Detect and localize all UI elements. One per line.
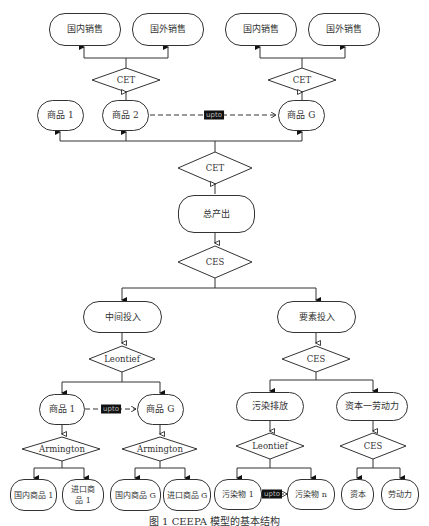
node-foreign-sales-left: 国外销售 bbox=[132, 13, 204, 46]
ces-label-main: CES bbox=[206, 257, 225, 267]
node-label: 进口商品 1 bbox=[69, 484, 97, 506]
node-label: 国内商品 1 bbox=[14, 490, 54, 501]
node-label: 资本一劳动力 bbox=[345, 401, 399, 412]
node-label: 商品 2 bbox=[112, 110, 139, 121]
node-import-good-g: 进口商品 G bbox=[163, 479, 211, 511]
node-capital: 资本 bbox=[341, 479, 374, 510]
node-import-good-1: 进口商品 1 bbox=[62, 479, 104, 511]
node-domestic-good-1: 国内商品 1 bbox=[10, 479, 57, 511]
node-label: 国外销售 bbox=[150, 24, 186, 35]
ces-label-capital-labor: CES bbox=[364, 441, 383, 451]
node-labor: 劳动力 bbox=[381, 479, 419, 510]
node-pollution-emission: 污染排放 bbox=[236, 392, 304, 421]
upto-tag-pollutant: upto bbox=[262, 490, 282, 499]
node-domestic-sales-right: 国内销售 bbox=[225, 13, 297, 46]
node-label: 商品 G bbox=[287, 110, 315, 121]
node-label: 要素投入 bbox=[299, 312, 335, 323]
node-factor-input: 要素投入 bbox=[277, 301, 356, 333]
node-label: 国内销售 bbox=[67, 24, 103, 35]
node-foreign-sales-right: 国外销售 bbox=[308, 13, 380, 46]
node-good-2-top: 商品 2 bbox=[102, 100, 149, 131]
node-label: 国内销售 bbox=[243, 24, 279, 35]
node-label: 污染排放 bbox=[252, 401, 288, 412]
node-label: 国内商品 G bbox=[115, 490, 156, 501]
leontief-label-pollution: Leontief bbox=[252, 441, 288, 451]
node-good-1-top: 商品 1 bbox=[37, 100, 84, 131]
cet-label-main: CET bbox=[206, 163, 224, 173]
node-label: 商品 1 bbox=[49, 404, 76, 415]
ces-label-factor: CES bbox=[307, 354, 326, 364]
node-good-g-top: 商品 G bbox=[278, 100, 325, 131]
node-label: 中间投入 bbox=[105, 312, 141, 323]
cet-label-left: CET bbox=[117, 75, 135, 85]
node-label: 商品 1 bbox=[47, 110, 74, 121]
node-domestic-good-g: 国内商品 G bbox=[110, 479, 161, 511]
node-label: 污染物 1 bbox=[222, 489, 254, 500]
figure-caption: 图 1 CEEPA 模型的基本结构 bbox=[0, 513, 429, 526]
node-label: 污染物 n bbox=[295, 489, 327, 500]
node-domestic-sales-left: 国内销售 bbox=[49, 13, 121, 46]
node-total-output: 总产出 bbox=[178, 195, 255, 233]
node-good-g-intermediate: 商品 G bbox=[137, 394, 184, 425]
node-label: 国外销售 bbox=[326, 24, 362, 35]
node-label: 总产出 bbox=[203, 209, 230, 220]
node-pollutant-n: 污染物 n bbox=[287, 479, 335, 510]
leontief-label-intermediate: Leontief bbox=[104, 354, 140, 364]
upto-tag-intermediate: upto bbox=[101, 405, 121, 414]
upto-tag-top: upto bbox=[204, 111, 224, 120]
node-label: 商品 G bbox=[146, 404, 174, 415]
node-capital-labor: 资本一劳动力 bbox=[336, 392, 408, 421]
armington-label-g: Armington bbox=[137, 444, 183, 454]
cet-label-right: CET bbox=[293, 75, 311, 85]
node-pollutant-1: 污染物 1 bbox=[214, 479, 262, 510]
node-label: 资本 bbox=[350, 489, 366, 500]
node-intermediate-input: 中间投入 bbox=[83, 301, 162, 333]
node-label: 劳动力 bbox=[388, 489, 412, 500]
node-label: 进口商品 G bbox=[167, 490, 208, 501]
armington-label-1: Armington bbox=[39, 444, 85, 454]
node-good-1-intermediate: 商品 1 bbox=[39, 394, 85, 425]
